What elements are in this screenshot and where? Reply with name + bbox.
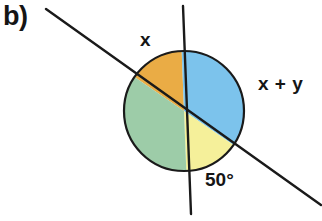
geometry-diagram (0, 0, 322, 221)
sector-label-x: x (140, 30, 151, 49)
figure-container: b) x x + y 50° (0, 0, 322, 221)
angle-label-50-degrees: 50° (205, 170, 234, 189)
sector-label-x-plus-y: x + y (258, 74, 303, 93)
part-label: b) (3, 3, 27, 30)
